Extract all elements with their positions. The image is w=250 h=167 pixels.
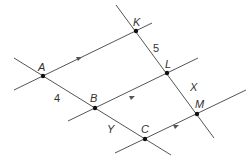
label-a: A: [38, 62, 45, 73]
point-b: [93, 106, 97, 110]
parallel-lines-diagram: [0, 0, 250, 167]
label-b: B: [90, 93, 97, 104]
parallel-line-cm: [115, 90, 246, 153]
arrow-marker-icon: [173, 125, 179, 129]
point-k: [134, 29, 138, 33]
label-l: L: [165, 59, 171, 70]
point-a: [41, 74, 45, 78]
arrow-marker-icon: [129, 96, 135, 100]
point-l: [165, 71, 169, 75]
segment-lm-length: X: [190, 82, 197, 93]
label-c: C: [141, 124, 149, 135]
segment-bc-length: Y: [107, 124, 114, 135]
transversal-klm: [116, 5, 214, 138]
label-m: M: [195, 99, 204, 110]
label-k: K: [133, 17, 140, 28]
segment-ab-length: 4: [54, 93, 60, 104]
segment-kl-length: 5: [153, 43, 159, 54]
parallel-line-ak: [14, 23, 152, 90]
point-c: [143, 137, 147, 141]
point-m: [195, 112, 199, 116]
